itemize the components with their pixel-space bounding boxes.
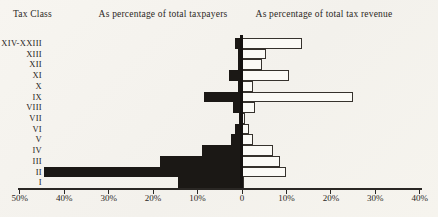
x-axis-tick-label-40%: 40%: [49, 193, 79, 203]
left-series-title: As percentage of total taxpayers: [99, 9, 228, 19]
tax-class-label-XIV-XXIII: XIV-XXIII: [0, 38, 42, 49]
tax-class-label-VIII: VIII: [0, 102, 42, 113]
tax-class-label-V: V: [0, 134, 42, 145]
tax-class-label-III: III: [0, 156, 42, 167]
x-axis-line: [18, 188, 422, 190]
tax-class-label-XII: XII: [0, 59, 42, 70]
taxpayer-share-bar-II: [44, 167, 242, 178]
tax-class-label-I: I: [0, 177, 42, 188]
revenue-share-bar-XI: [242, 70, 289, 81]
revenue-share-bar-XIV-XXIII: [242, 38, 302, 49]
revenue-share-bar-IV: [242, 145, 273, 156]
x-axis-tick-label-20%: 20%: [138, 193, 168, 203]
x-axis-tick-label-30%: 30%: [94, 193, 124, 203]
revenue-share-bar-XIII: [242, 49, 266, 60]
revenue-share-bar-V: [242, 134, 253, 145]
tax-class-label-XI: XI: [0, 70, 42, 81]
right-series-title: As percentage of total tax revenue: [256, 9, 393, 19]
revenue-share-bar-X: [242, 81, 253, 92]
taxpayer-share-bar-IX: [204, 92, 242, 103]
x-axis-tick-label-0: 0: [227, 193, 257, 203]
x-axis-tick-label-20%: 20%: [316, 193, 346, 203]
tax-class-label-X: X: [0, 81, 42, 92]
x-axis-tick-label-50%: 50%: [5, 193, 35, 203]
revenue-share-bar-III: [242, 156, 280, 167]
scanned-tax-chart-page: Tax Class As percentage of total taxpaye…: [0, 0, 438, 217]
revenue-share-bar-II: [242, 167, 286, 178]
taxpayer-share-bar-IV: [202, 145, 242, 156]
zero-baseline-axis: [240, 35, 243, 188]
x-axis-tick-label-30%: 30%: [360, 193, 390, 203]
x-axis-tick-label-10%: 10%: [183, 193, 213, 203]
tax-class-label-IV: IV: [0, 145, 42, 156]
x-axis-tick-label-40%: 40%: [405, 193, 435, 203]
tax-class-label-XIII: XIII: [0, 49, 42, 60]
x-axis-tick-label-10%: 10%: [271, 193, 301, 203]
revenue-share-bar-XII: [242, 59, 262, 70]
tax-class-label-VII: VII: [0, 113, 42, 124]
revenue-share-bar-IX: [242, 92, 353, 103]
tax-class-label-II: II: [0, 167, 42, 178]
taxpayer-share-bar-III: [160, 156, 242, 167]
revenue-share-bar-VIII: [242, 102, 255, 113]
y-axis-title: Tax Class: [13, 9, 52, 19]
tax-class-label-IX: IX: [0, 92, 42, 103]
taxpayer-share-bar-I: [178, 177, 242, 188]
tax-class-label-VI: VI: [0, 124, 42, 135]
